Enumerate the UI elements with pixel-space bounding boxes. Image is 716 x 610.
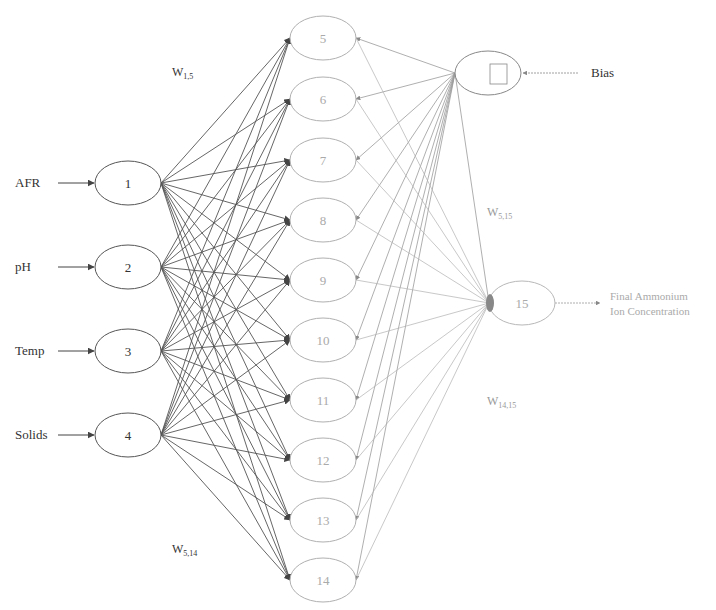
edge-hidden-output [356,280,489,303]
hidden-node-5: 5 [290,16,356,60]
weight-label-w-5-15: W5,15 [487,205,512,221]
hidden-node-9: 9 [290,258,356,302]
svg-text:7: 7 [320,153,327,168]
svg-text:1: 1 [125,176,132,191]
output-label-line2: Ion Concentration [610,305,690,317]
hidden-node-10: 10 [290,318,356,362]
bias-label: Bias [591,65,614,80]
svg-text:15: 15 [516,296,529,311]
hidden-node-6: 6 [290,77,356,121]
svg-text:8: 8 [320,213,327,228]
svg-text:5: 5 [320,31,327,46]
svg-text:10: 10 [317,333,330,348]
svg-text:14: 14 [317,573,331,588]
edge-bias-hidden [356,73,455,520]
hidden-node-11: 11 [290,378,356,422]
edge-hidden-output [356,303,489,520]
edge-input-hidden [161,183,290,280]
input-node-1: 1 [95,161,161,205]
weight-label-w-14-15: W14,15 [487,394,516,410]
output-node-15: 15 [486,281,555,325]
edge-input-hidden [161,340,290,435]
labels: AFRpHTempSolidsBiasFinal AmmoniumIon Con… [15,65,690,558]
input-node-2: 2 [95,245,161,289]
edge-input-hidden [161,160,290,267]
bias-node [455,51,521,95]
svg-text:11: 11 [317,393,330,408]
edge-input-hidden [161,99,290,183]
weight-label-w-5-14: W5,14 [172,542,197,558]
input-label-ph: pH [15,259,31,274]
hidden-node-7: 7 [290,138,356,182]
edge-bias-hidden [356,73,455,280]
output-label-line1: Final Ammonium [610,290,688,302]
edge-hidden-output [356,303,489,580]
hidden-node-8: 8 [290,198,356,242]
svg-text:2: 2 [125,260,132,275]
svg-text:13: 13 [317,513,330,528]
edge-input-hidden [161,160,290,183]
edge-hidden-output [356,303,489,400]
neural-network-diagram: 123456789101112131415 AFRpHTempSolidsBia… [0,0,716,610]
edge-input-hidden [161,38,290,351]
input-node-3: 3 [95,329,161,373]
hidden-node-12: 12 [290,438,356,482]
edge-bias-hidden [356,73,455,340]
edge-input-hidden [161,183,290,580]
edge-hidden-output [356,220,489,303]
edge-input-hidden [161,99,290,267]
edge-input-hidden [161,220,290,435]
edge-input-hidden [161,340,290,351]
summation-junction [486,294,494,312]
network-svg: 123456789101112131415 AFRpHTempSolidsBia… [0,0,716,610]
edge-input-hidden [161,38,290,183]
hidden-node-13: 13 [290,498,356,542]
edge-input-hidden [161,183,290,340]
edge-input-hidden [161,99,290,435]
edge-input-hidden [161,267,290,460]
svg-text:6: 6 [320,92,327,107]
edge-hidden-output [356,99,489,303]
input-label-temp: Temp [15,343,44,358]
svg-text:3: 3 [125,344,132,359]
edge-hidden-output [356,303,489,340]
edge-input-hidden [161,220,290,351]
svg-text:9: 9 [320,273,327,288]
svg-text:12: 12 [317,453,330,468]
input-label-solids: Solids [15,427,48,442]
input-node-4: 4 [95,413,161,457]
input-label-afr: AFR [15,175,41,190]
hidden-node-14: 14 [290,558,356,602]
weight-label-w-1-5: W1,5 [172,65,193,81]
svg-text:4: 4 [125,428,132,443]
